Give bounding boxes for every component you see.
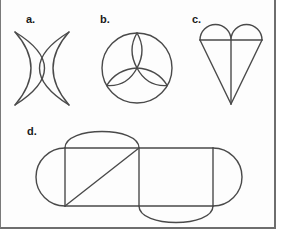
figure-canvas: a. b. c. bbox=[0, 0, 283, 235]
figure-a: a. bbox=[15, 13, 69, 105]
figure-d-label: d. bbox=[27, 125, 37, 137]
figure-c-label: c. bbox=[192, 13, 201, 25]
net-squares-icon bbox=[36, 132, 242, 223]
figure-a-label: a. bbox=[26, 13, 35, 25]
crescents-icon bbox=[15, 32, 69, 105]
heart-icon bbox=[200, 24, 262, 104]
figure-b: b. bbox=[100, 13, 172, 103]
figure-c: c. bbox=[192, 13, 262, 104]
figure-b-label: b. bbox=[100, 13, 110, 25]
figure-d: d. bbox=[27, 125, 242, 223]
trefoil-circle-icon bbox=[102, 33, 172, 103]
